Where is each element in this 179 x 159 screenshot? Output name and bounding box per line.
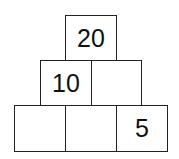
pyramid-cell-middle-left: 10 <box>40 60 92 106</box>
pyramid-cell-middle-right <box>91 60 142 106</box>
pyramid-cell-top: 20 <box>65 15 117 61</box>
pyramid-cell-bottom-left <box>14 105 66 152</box>
pyramid-cell-bottom-right: 5 <box>116 105 168 152</box>
pyramid-cell-bottom-middle <box>65 105 117 152</box>
